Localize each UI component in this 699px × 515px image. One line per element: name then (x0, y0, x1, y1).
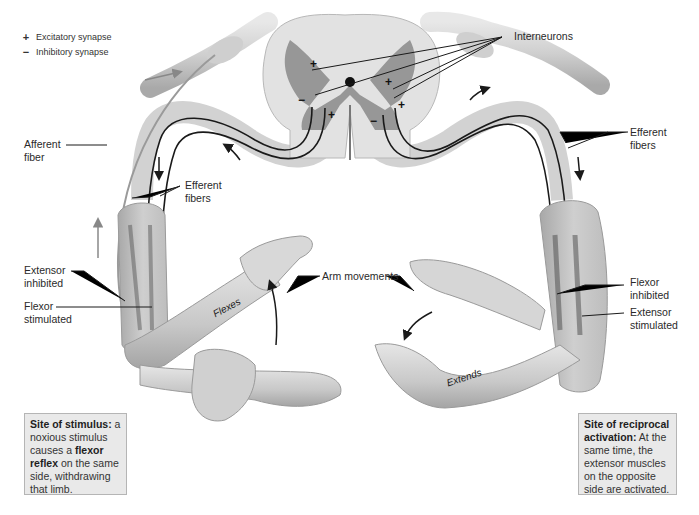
stimulating-hand (192, 349, 256, 421)
label-line: fiber (24, 151, 61, 164)
legend-label: Excitatory synapse (36, 30, 112, 45)
plus-icon: + (22, 30, 30, 45)
label-extensor-inhibited: Extensor inhibited (24, 264, 65, 290)
synapse-sign-plus: + (385, 75, 392, 89)
label-afferent-fiber: Afferent fiber (24, 138, 61, 164)
label-line: inhibited (630, 289, 669, 302)
legend: + Excitatory synapse − Inhibitory synaps… (22, 30, 112, 60)
arm-movement-arrows (270, 282, 432, 345)
label-interneurons: Interneurons (514, 30, 573, 43)
caption-site-of-reciprocal-activation: Site of reciprocal activation: At the sa… (578, 413, 677, 495)
synapse-sign-plus: + (328, 108, 335, 122)
legend-excitatory: + Excitatory synapse (22, 30, 112, 45)
label-efferent-fibers-right: Efferent fibers (630, 126, 667, 152)
label-flexor-stimulated: Flexor stimulated (24, 300, 72, 326)
legend-inhibitory: − Inhibitory synapse (22, 45, 112, 60)
label-line: inhibited (24, 277, 65, 290)
minus-icon: − (22, 45, 30, 60)
label-line: stimulated (630, 319, 678, 332)
label-line: Flexor (24, 300, 72, 313)
synapse-sign-minus: − (370, 114, 377, 128)
label-line: Afferent (24, 138, 61, 151)
label-line: Extensor (24, 264, 65, 277)
label-line: Flexor (630, 276, 669, 289)
caption-site-of-stimulus: Site of stimulus: a noxious stimulus cau… (24, 413, 127, 495)
legend-label: Inhibitory synapse (36, 45, 109, 60)
label-arm-movements: Arm movements (322, 270, 398, 283)
label-line: Efferent (185, 179, 222, 192)
label-line: Extensor (630, 306, 678, 319)
label-line: fibers (630, 139, 667, 152)
synapse-sign-minus: − (298, 93, 305, 107)
label-line: stimulated (24, 313, 72, 326)
label-extensor-stimulated: Extensor stimulated (630, 306, 678, 332)
caption-title: Site of stimulus: (30, 418, 112, 430)
synapse-sign-plus: + (398, 98, 405, 112)
label-flexor-inhibited: Flexor inhibited (630, 276, 669, 302)
right-arm-extending (375, 201, 607, 408)
label-line: fibers (185, 192, 222, 205)
label-line: Efferent (630, 126, 667, 139)
label-efferent-fibers-left: Efferent fibers (185, 179, 222, 205)
